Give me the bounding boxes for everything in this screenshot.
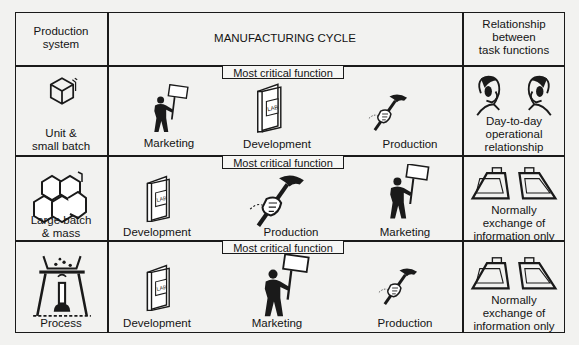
divider bbox=[462, 12, 464, 333]
function-label: Production bbox=[246, 226, 336, 238]
divider bbox=[107, 12, 109, 333]
bunsen-burner-icon bbox=[30, 254, 94, 320]
lab-book-icon bbox=[142, 174, 176, 224]
header-production-system: Production system bbox=[15, 25, 107, 51]
header-manufacturing-cycle: MANUFACTURING CYCLE bbox=[108, 32, 462, 45]
hammer-hand-icon bbox=[366, 92, 410, 136]
single-box-icon bbox=[46, 74, 78, 108]
system-label: Large batch & mass bbox=[15, 214, 107, 240]
system-label: Process bbox=[15, 317, 107, 330]
function-label: Marketing bbox=[232, 317, 322, 329]
critical-function-badge: Most critical function bbox=[222, 155, 344, 169]
header-relationship: Relationship between task functions bbox=[463, 18, 565, 57]
relationship-label: Normally exchange of information only bbox=[463, 204, 565, 243]
hammer-hand-icon bbox=[376, 266, 420, 310]
lab-book-icon bbox=[142, 262, 176, 314]
two-people-on-phone-icon bbox=[466, 73, 562, 119]
function-label: Development bbox=[232, 138, 322, 150]
function-label: Development bbox=[112, 317, 202, 329]
relationship-label: Normally exchange of information only bbox=[463, 294, 565, 333]
function-label: Production bbox=[360, 317, 450, 329]
hammer-hand-icon bbox=[246, 172, 308, 234]
marketing-person-icon bbox=[148, 84, 190, 134]
lab-book-icon bbox=[252, 80, 288, 136]
critical-function-badge: Most critical function bbox=[222, 240, 344, 254]
in-out-trays-icon bbox=[468, 166, 560, 202]
function-label: Production bbox=[365, 138, 455, 150]
function-label: Marketing bbox=[124, 137, 214, 149]
in-out-trays-icon bbox=[468, 256, 560, 292]
function-label: Development bbox=[112, 226, 202, 238]
marketing-person-icon bbox=[382, 164, 432, 220]
function-label: Marketing bbox=[360, 226, 450, 238]
system-label: Unit & small batch bbox=[15, 127, 107, 153]
marketing-person-icon bbox=[256, 254, 312, 318]
critical-function-badge: Most critical function bbox=[222, 65, 344, 79]
relationship-label: Day-to-day operational relationship bbox=[463, 115, 565, 154]
